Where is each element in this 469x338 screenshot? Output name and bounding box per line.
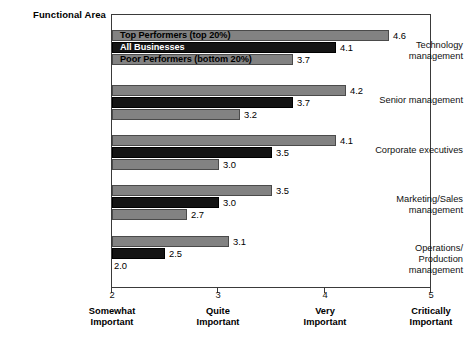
- bar-corporate-executives-poor-performers: [112, 159, 219, 170]
- category-label-technology-management: Technology management: [363, 40, 469, 62]
- tick-caption-quite-important: Quite Important: [163, 306, 273, 327]
- bar-value-operations-production-management-poor-performers: 2.0: [114, 260, 127, 271]
- tick-caption-line2: Important: [163, 317, 273, 328]
- tick-label-3: 3: [198, 290, 238, 300]
- bar-operations-production-management-all-businesses: [112, 248, 165, 259]
- bar-operations-production-management-top-performers: [112, 236, 229, 247]
- legend-label-poor-performers: Poor Performers (bottom 20%): [120, 54, 252, 65]
- category-label-line1: Marketing/Sales: [363, 194, 463, 205]
- tick-caption-line2: Important: [270, 317, 380, 328]
- category-label-marketing-sales-management: Marketing/Sales management: [363, 194, 469, 216]
- bar-value-marketing-sales-management-top-performers: 3.5: [276, 185, 289, 196]
- category-label-line2: management: [363, 205, 463, 216]
- bar-corporate-executives-all-businesses: [112, 147, 272, 158]
- bar-senior-management-poor-performers: [112, 109, 240, 120]
- tick-label-5: 5: [411, 290, 451, 300]
- tick-caption-line2: Important: [376, 317, 469, 328]
- bar-senior-management-all-businesses: [112, 97, 293, 108]
- tick-caption-line1: Somewhat: [57, 306, 167, 317]
- bar-value-senior-management-top-performers: 4.2: [350, 85, 363, 96]
- category-label-line2: management: [363, 51, 463, 62]
- tick-caption-somewhat-important: Somewhat Important: [57, 306, 167, 327]
- axis-title: Functional Area: [22, 9, 106, 20]
- bar-marketing-sales-management-top-performers: [112, 185, 272, 196]
- bar-value-corporate-executives-poor-performers: 3.0: [223, 159, 236, 170]
- bar-value-senior-management-all-businesses: 3.7: [297, 97, 310, 108]
- category-label-line1: Technology: [363, 40, 463, 51]
- bar-value-marketing-sales-management-all-businesses: 3.0: [223, 197, 236, 208]
- bar-corporate-executives-top-performers: [112, 135, 336, 146]
- bar-value-operations-production-management-all-businesses: 2.5: [169, 248, 182, 259]
- tick-label-2: 2: [92, 290, 132, 300]
- bar-value-corporate-executives-top-performers: 4.1: [340, 135, 353, 146]
- tick-caption-critically-important: Critically Important: [376, 306, 469, 327]
- bar-value-operations-production-management-top-performers: 3.1: [233, 236, 246, 247]
- tick-label-4: 4: [305, 290, 345, 300]
- bar-value-technology-management-top-performers: 4.6: [393, 30, 406, 41]
- bar-value-corporate-executives-all-businesses: 3.5: [276, 147, 289, 158]
- bar-value-senior-management-poor-performers: 3.2: [244, 109, 257, 120]
- tick-caption-line1: Quite: [163, 306, 273, 317]
- tick-caption-line1: Very: [270, 306, 380, 317]
- category-label-line2: Production: [363, 254, 463, 265]
- category-label-line3: management: [363, 265, 463, 276]
- bar-senior-management-top-performers: [112, 85, 346, 96]
- legend-label-all-businesses: All Businesses: [120, 42, 185, 53]
- tick-caption-line1: Critically: [376, 306, 469, 317]
- category-label-line1: Corporate executives: [363, 145, 463, 156]
- category-label-line1: Operations/: [363, 243, 463, 254]
- category-label-operations-production-management: Operations/ Production management: [363, 243, 469, 277]
- tick-caption-very-important: Very Important: [270, 306, 380, 327]
- legend-label-top-performers: Top Performers (top 20%): [120, 30, 230, 41]
- category-label-line1: Senior management: [363, 95, 463, 106]
- category-label-senior-management: Senior management: [363, 95, 469, 106]
- bar-value-marketing-sales-management-poor-performers: 2.7: [191, 209, 204, 220]
- bar-marketing-sales-management-poor-performers: [112, 209, 187, 220]
- category-label-corporate-executives: Corporate executives: [363, 145, 469, 156]
- bar-value-technology-management-all-businesses: 4.1: [340, 42, 353, 53]
- bar-value-technology-management-poor-performers: 3.7: [297, 54, 310, 65]
- bar-chart: Functional Area Technology management Se…: [0, 0, 469, 338]
- tick-caption-line2: Important: [57, 317, 167, 328]
- bar-marketing-sales-management-all-businesses: [112, 197, 219, 208]
